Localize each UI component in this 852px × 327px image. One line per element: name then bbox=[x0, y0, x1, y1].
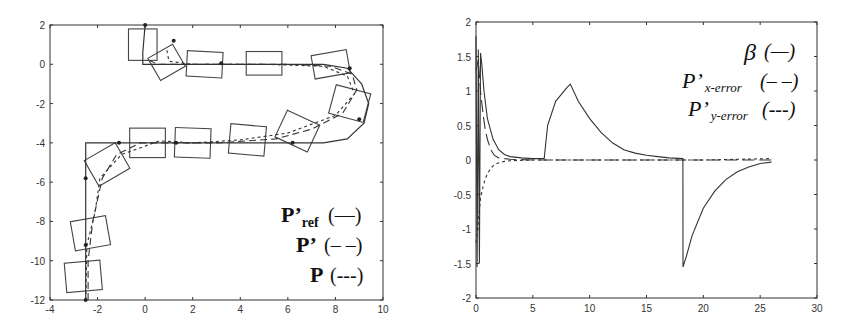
y-tick-label: 2 bbox=[39, 20, 45, 31]
vehicle-box bbox=[275, 110, 320, 152]
figure-canvas: -4-2024681020-2-4-6-8-10-12 P’ref (—) P’… bbox=[0, 0, 852, 327]
y-tick-label: -0.5 bbox=[454, 190, 472, 201]
marker-dot bbox=[84, 243, 88, 247]
x-tick-label: 25 bbox=[755, 303, 767, 314]
legend-pref-style: (—) bbox=[328, 204, 361, 227]
x-tick-label: 0 bbox=[142, 304, 148, 315]
legend-xerror-style: (– –) bbox=[760, 70, 799, 93]
marker-dot bbox=[143, 23, 147, 27]
y-tick-label: -1.5 bbox=[454, 259, 472, 270]
legend-yerror-style: (---) bbox=[762, 98, 796, 121]
marker-dot bbox=[84, 176, 88, 180]
vehicle-box bbox=[70, 216, 110, 251]
legend-beta-style: (—) bbox=[764, 40, 795, 63]
right-legend: β (—) P’x-error (– –) P’y-error (---) bbox=[681, 39, 799, 123]
legend-xerror-label: P’x-error bbox=[681, 68, 743, 95]
error-plot: 05101520253021.510.50-0.5-1-1.5-2 β (—) … bbox=[454, 17, 823, 314]
x-tick-label: -4 bbox=[46, 304, 55, 315]
y-tick-label: -2 bbox=[36, 99, 45, 110]
marker-dot bbox=[117, 141, 121, 145]
trajectory-plot: -4-2024681020-2-4-6-8-10-12 P’ref (—) P’… bbox=[31, 20, 389, 315]
x-tick-label: 8 bbox=[333, 304, 339, 315]
marker-dot bbox=[174, 141, 178, 145]
left-legend: P’ref (—) P’ (– –) P (---) bbox=[281, 202, 363, 287]
legend-pref-label: P’ref bbox=[281, 202, 319, 230]
legend-beta-label: β bbox=[743, 39, 756, 65]
legend-yerror-label: P’y-error bbox=[687, 96, 749, 123]
legend-p-style: (---) bbox=[330, 264, 363, 287]
x-tick-label: 10 bbox=[584, 303, 596, 314]
y-tick-label: 0 bbox=[39, 59, 45, 70]
x-tick-label: 10 bbox=[377, 304, 389, 315]
x-tick-label: 5 bbox=[530, 303, 536, 314]
vehicle-box bbox=[246, 52, 282, 76]
y-tick-label: 0 bbox=[465, 155, 471, 166]
x-tick-label: -2 bbox=[93, 304, 102, 315]
y-tick-label: 1 bbox=[465, 86, 471, 97]
marker-dot bbox=[291, 141, 295, 145]
legend-pprime-label: P’ bbox=[296, 232, 317, 257]
marker-dot bbox=[348, 66, 352, 70]
y-tick-label: 2 bbox=[465, 17, 471, 28]
y-tick-label: -2 bbox=[462, 293, 471, 304]
x-tick-label: 0 bbox=[473, 303, 479, 314]
vehicle-box bbox=[84, 143, 130, 186]
legend-p-label: P bbox=[310, 262, 323, 287]
y-tick-label: -6 bbox=[36, 177, 45, 188]
legend-pprime-style: (– –) bbox=[324, 234, 362, 257]
x-tick-label: 20 bbox=[698, 303, 710, 314]
marker-dot bbox=[219, 61, 223, 65]
x-tick-label: 2 bbox=[190, 304, 196, 315]
error-series bbox=[476, 36, 772, 267]
x-tick-label: 6 bbox=[285, 304, 291, 315]
y-tick-label: 1.5 bbox=[457, 52, 471, 63]
series-line bbox=[476, 159, 772, 243]
y-tick-label: -12 bbox=[31, 295, 46, 306]
y-tick-label: 0.5 bbox=[457, 121, 471, 132]
vehicle-box bbox=[64, 260, 102, 292]
marker-dot bbox=[84, 298, 88, 302]
y-tick-label: -1 bbox=[462, 224, 471, 235]
marker-dot bbox=[357, 117, 361, 121]
y-tick-label: -10 bbox=[31, 256, 46, 267]
y-tick-label: -4 bbox=[36, 138, 45, 149]
series-line bbox=[476, 36, 772, 267]
x-tick-label: 4 bbox=[238, 304, 244, 315]
x-tick-label: 30 bbox=[811, 303, 823, 314]
marker-dot bbox=[172, 39, 176, 43]
x-tick-label: 15 bbox=[641, 303, 653, 314]
y-tick-label: -8 bbox=[36, 216, 45, 227]
